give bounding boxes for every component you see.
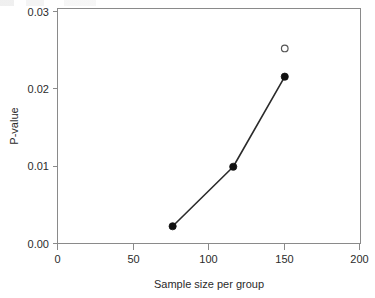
y-tick-label-0: 0.00 bbox=[28, 238, 49, 250]
x-tick-label-2: 100 bbox=[199, 253, 217, 265]
y-axis-ticks bbox=[53, 12, 58, 244]
p-value-vs-sample-size-chart: 0.00 0.01 0.02 0.03 0 50 100 150 200 Sam… bbox=[0, 0, 375, 298]
y-tick-label-3: 0.03 bbox=[28, 6, 49, 18]
series-line-p-value bbox=[173, 77, 285, 227]
x-tick-label-0: 0 bbox=[54, 253, 60, 265]
series-markers-filled bbox=[169, 73, 288, 230]
data-point-open-0 bbox=[281, 45, 288, 52]
x-axis-tick-labels: 0 50 100 150 200 bbox=[54, 253, 368, 265]
x-tick-label-3: 150 bbox=[275, 253, 293, 265]
x-axis-ticks bbox=[58, 244, 360, 251]
y-tick-label-1: 0.01 bbox=[28, 160, 49, 172]
series-markers-open bbox=[281, 45, 288, 52]
y-tick-label-2: 0.02 bbox=[28, 83, 49, 95]
y-axis-tick-labels: 0.00 0.01 0.02 0.03 bbox=[28, 6, 49, 250]
chart-figure: 0.00 0.01 0.02 0.03 0 50 100 150 200 Sam… bbox=[0, 0, 375, 298]
data-point-filled-0 bbox=[169, 223, 176, 230]
x-tick-label-1: 50 bbox=[127, 253, 139, 265]
x-tick-label-4: 200 bbox=[350, 253, 368, 265]
x-axis-title: Sample size per group bbox=[154, 278, 264, 290]
data-layer bbox=[169, 45, 288, 230]
data-point-filled-1 bbox=[230, 163, 237, 170]
data-point-filled-2 bbox=[281, 73, 288, 80]
y-axis-title: P-value bbox=[8, 107, 20, 144]
plot-frame bbox=[58, 9, 361, 244]
